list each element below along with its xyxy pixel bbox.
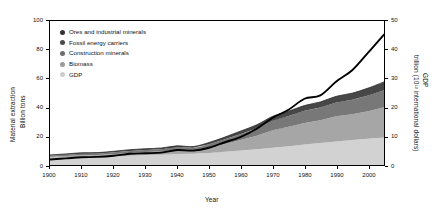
y-axis-tick-label: 20 — [21, 133, 43, 139]
x-axis-tick-label: 1930 — [130, 172, 160, 178]
y-axis-tick-label: 80 — [21, 46, 43, 52]
y2-axis-tick-label: 50 — [391, 17, 413, 23]
y-axis-tick-label: 100 — [21, 17, 43, 23]
legend-item-label: Biomass — [69, 61, 93, 67]
y2-axis-tick-label: 10 — [391, 133, 413, 139]
legend-marker-icon — [60, 62, 65, 67]
legend-marker-icon — [60, 72, 65, 77]
legend-marker-icon — [60, 40, 65, 45]
legend-marker-icon — [60, 51, 65, 56]
legend-item-label: Ores and industrial minerals — [69, 29, 146, 35]
legend-marker-icon — [60, 30, 65, 35]
x-axis-tick-label: 1950 — [194, 172, 224, 178]
x-axis-tick-label: 1910 — [66, 172, 96, 178]
x-axis-tick-label: 1960 — [226, 172, 256, 178]
legend-item: Fossil energy carriers — [60, 38, 146, 49]
legend-item: GDP — [60, 69, 146, 80]
y2-axis-title-units: trillion (10¹² international dollars) — [413, 55, 420, 152]
x-axis-tick-label: 1900 — [34, 172, 64, 178]
y2-axis-tick-label: 20 — [391, 104, 413, 110]
x-axis-tick-label: 1970 — [258, 172, 288, 178]
y2-axis-tick-label: 30 — [391, 75, 413, 81]
legend-item: Ores and industrial minerals — [60, 27, 146, 38]
y2-axis-title-primary: GDP — [422, 73, 429, 87]
y-axis-tick-label: 0 — [21, 163, 43, 169]
chart-legend: Ores and industrial mineralsFossil energ… — [60, 27, 146, 80]
material-extraction-gdp-chart: Material extraction Billion tons GDP tri… — [0, 0, 443, 210]
legend-item-label: Fossil energy carriers — [69, 40, 128, 46]
y2-axis-tick-label: 0 — [391, 163, 413, 169]
legend-item: Construction minerals — [60, 48, 146, 59]
y-axis-tick-label: 60 — [21, 75, 43, 81]
x-axis-title: Year — [205, 196, 219, 203]
x-axis-tick-label: 2000 — [354, 172, 384, 178]
legend-item: Biomass — [60, 59, 146, 70]
y-axis-title-primary: Material extraction — [9, 87, 16, 142]
x-axis-tick-label: 1940 — [162, 172, 192, 178]
legend-item-label: GDP — [69, 72, 82, 78]
x-axis-tick-label: 1990 — [322, 172, 352, 178]
x-axis-tick-label: 1920 — [98, 172, 128, 178]
x-axis-tick-label: 1980 — [290, 172, 320, 178]
y-axis-title-units: Billion tons — [19, 95, 26, 128]
y2-axis-tick-label: 40 — [391, 46, 413, 52]
legend-item-label: Construction minerals — [69, 50, 129, 56]
y-axis-tick-label: 40 — [21, 104, 43, 110]
